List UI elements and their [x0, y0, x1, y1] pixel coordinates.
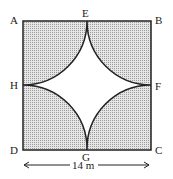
label-b: B	[155, 15, 162, 26]
label-e: E	[82, 8, 89, 19]
label-f: F	[155, 81, 161, 92]
label-h: H	[10, 80, 18, 91]
dimension-label: 14 m	[72, 160, 94, 171]
label-c: C	[155, 145, 162, 156]
label-d: D	[10, 145, 18, 156]
label-a: A	[10, 15, 18, 26]
